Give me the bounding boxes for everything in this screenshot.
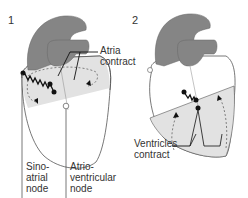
- sinoatrial-node-dot: [21, 71, 26, 76]
- panel-1: 1 Atria contract Sin: [8, 14, 136, 198]
- sinoatrial-node-label: Sino- atrial node: [26, 161, 52, 194]
- atria-contract-label: Atria contract: [100, 45, 136, 67]
- heart-conduction-diagram: 1 Atria contract Sin: [0, 0, 248, 198]
- atrioventricular-node-marker: [63, 103, 69, 109]
- sinoatrial-node-marker-2: [148, 68, 153, 73]
- panel-2: 2 Ventricles contract: [132, 14, 235, 160]
- panel-1-number: 1: [8, 14, 14, 26]
- panel-2-number: 2: [132, 14, 138, 26]
- ventricles-contract-label: Ventricles contract: [134, 138, 180, 160]
- atrioventricular-node-label: Atrio- ventricular node: [70, 161, 119, 194]
